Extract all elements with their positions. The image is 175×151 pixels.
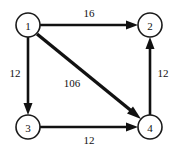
node-4[interactable]: 4 — [138, 115, 162, 139]
edge-1-to-3 — [24, 37, 33, 115]
edge-3-to-4-arrowhead — [126, 123, 138, 132]
edge-1-to-3-arrowhead — [24, 103, 33, 115]
node-3-label: 3 — [25, 122, 31, 134]
graph-svg-canvas: 1 2 3 4 16 12 106 12 12 — [0, 0, 175, 151]
edge-4-to-2 — [146, 37, 155, 115]
graph-diagram: 1 2 3 4 16 12 106 12 12 — [0, 0, 175, 151]
edge-1-to-4-line — [37, 34, 134, 113]
edge-1-to-2 — [40, 21, 138, 30]
node-3[interactable]: 3 — [16, 115, 40, 139]
node-1[interactable]: 1 — [16, 13, 40, 37]
edge-1-to-3-weight: 12 — [10, 67, 21, 79]
edge-group — [24, 21, 155, 132]
node-1-label: 1 — [25, 20, 31, 32]
edge-4-to-2-arrowhead — [146, 37, 155, 49]
node-2-label: 2 — [147, 20, 153, 32]
edge-4-to-2-weight: 12 — [158, 67, 169, 79]
edge-1-to-2-weight: 16 — [84, 7, 96, 19]
node-4-label: 4 — [147, 122, 153, 134]
node-2[interactable]: 2 — [138, 13, 162, 37]
edge-1-to-4-weight: 106 — [64, 77, 81, 89]
edge-1-to-4 — [37, 34, 141, 119]
edge-1-to-2-arrowhead — [126, 21, 138, 30]
edge-3-to-4-weight: 12 — [84, 134, 95, 146]
edge-3-to-4 — [40, 123, 138, 132]
